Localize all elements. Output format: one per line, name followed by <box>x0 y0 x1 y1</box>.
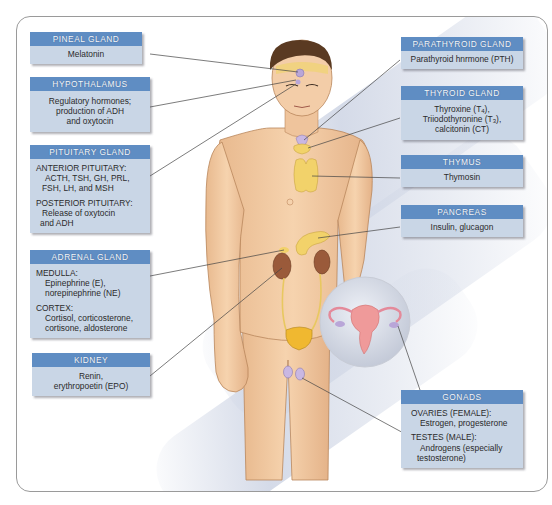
hormone-text: Insulin, glucagon <box>431 222 494 232</box>
label-pancreas: PANCREAS Insulin, glucagon <box>401 205 523 237</box>
label-body: Thyroxine (T4), Triiodothyronine (T3), c… <box>401 100 523 140</box>
kidney-left <box>273 253 291 279</box>
label-body: Renin, erythropoetin (EPO) <box>32 367 150 396</box>
hormone-text: ), <box>496 114 501 124</box>
pituitary-gland <box>296 80 301 85</box>
section-heading: CORTEX: <box>36 303 144 313</box>
hormone-text: and oxytocin <box>36 116 144 126</box>
thymus <box>294 159 318 192</box>
hormone-text: ACTH, TSH, GH, PRL, <box>36 173 144 183</box>
hormone-text: Regulatory hormones; <box>36 96 144 106</box>
label-title: PITUITARY GLAND <box>30 145 150 159</box>
label-hypothalamus: HYPOTHALAMUS Regulatory hormones; produc… <box>30 77 150 132</box>
hormone-line: Triiodothyronine (T3), <box>407 114 517 124</box>
label-body: Thymosin <box>401 169 523 187</box>
hormone-text: ), <box>485 104 490 114</box>
label-title: HYPOTHALAMUS <box>30 77 150 91</box>
section-heading: TESTES (MALE): <box>411 432 517 442</box>
hormone-text: testosterone) <box>411 453 517 463</box>
hormone-text: calcitonin (CT) <box>407 124 517 134</box>
hormone-text: Thyroxine (T <box>434 104 481 114</box>
label-gonads: GONADS OVARIES (FEMALE): Estrogen, proge… <box>401 390 523 468</box>
ovary-left <box>335 321 345 327</box>
hormone-text: cortisone, aldosterone <box>36 323 144 333</box>
label-thyroid-gland: THYROID GLAND Thyroxine (T4), Triiodothy… <box>401 86 523 140</box>
hormone-text: norepinephrine (NE) <box>36 288 144 298</box>
label-title: ADRENAL GLAND <box>30 250 150 264</box>
label-title: KIDNEY <box>32 353 150 367</box>
hormone-text: production of ADH <box>36 106 144 116</box>
section-heading: ANTERIOR PITUITARY: <box>36 163 144 173</box>
label-title: PINEAL GLAND <box>30 32 142 46</box>
hormone-text: Melatonin <box>68 49 104 59</box>
label-body: OVARIES (FEMALE): Estrogen, progesterone… <box>401 404 523 468</box>
label-body: Regulatory hormones; production of ADH a… <box>30 91 150 132</box>
label-title: GONADS <box>401 390 523 404</box>
ovary-right <box>389 322 399 328</box>
label-title: PARATHYROID GLAND <box>401 37 523 51</box>
label-title: THYMUS <box>401 155 523 169</box>
label-body: ANTERIOR PITUITARY: ACTH, TSH, GH, PRL, … <box>30 159 150 233</box>
hormone-text: Thymosin <box>444 172 480 182</box>
testis-right <box>296 368 305 380</box>
hormone-text: FSH, LH, and MSH <box>36 183 144 193</box>
label-thymus: THYMUS Thymosin <box>401 155 523 187</box>
label-body: Parathyroid hnrmone (PTH) <box>401 51 523 69</box>
label-body: MEDULLA: Epinephrine (E), norepinephrine… <box>30 264 150 338</box>
label-body: Insulin, glucagon <box>401 219 523 237</box>
hormone-text: Epinephrine (E), <box>36 278 144 288</box>
hormone-text: erythropoetin (EPO) <box>38 381 144 391</box>
female-reproductive-inset <box>320 277 410 367</box>
hormone-text: Cortisol, corticosterone, <box>36 313 144 323</box>
section-heading: OVARIES (FEMALE): <box>411 408 517 418</box>
hormone-line: Thyroxine (T4), <box>407 104 517 114</box>
testis-left <box>284 366 293 378</box>
label-title: PANCREAS <box>401 205 523 219</box>
pineal-gland <box>296 69 304 77</box>
hormone-text: Release of oxytocin <box>36 208 144 218</box>
label-title: THYROID GLAND <box>401 86 523 100</box>
hormone-text: Parathyroid hnrmone (PTH) <box>411 54 514 64</box>
kidney-right <box>314 250 330 274</box>
label-parathyroid-gland: PARATHYROID GLAND Parathyroid hnrmone (P… <box>401 37 523 69</box>
label-body: Melatonin <box>30 46 142 64</box>
label-pituitary-gland: PITUITARY GLAND ANTERIOR PITUITARY: ACTH… <box>30 145 150 233</box>
section-heading: POSTERIOR PITUITARY: <box>36 198 144 208</box>
hormone-text: Estrogen, progesterone <box>411 418 517 428</box>
hormone-text: Renin, <box>38 371 144 381</box>
label-adrenal-gland: ADRENAL GLAND MEDULLA: Epinephrine (E), … <box>30 250 150 338</box>
hormone-text: Triiodothyronine (T <box>423 114 493 124</box>
label-pineal-gland: PINEAL GLAND Melatonin <box>30 32 142 64</box>
hormone-text: and ADH <box>36 218 144 228</box>
section-heading: MEDULLA: <box>36 268 144 278</box>
hormone-text: Androgens (especially <box>411 443 517 453</box>
label-kidney: KIDNEY Renin, erythropoetin (EPO) <box>32 353 150 396</box>
